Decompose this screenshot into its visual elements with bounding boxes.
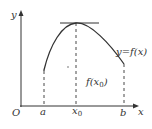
tick-label-a: a: [40, 106, 46, 117]
marker-dot: [67, 66, 69, 68]
origin-label: O: [12, 107, 20, 118]
x-axis-label: x: [138, 106, 144, 117]
curve-label: y=f(x): [115, 46, 147, 57]
tick-label-b: b: [120, 107, 126, 118]
y-axis-label: y: [10, 9, 17, 20]
function-curve: [44, 23, 124, 71]
y-axis-arrow-icon: [19, 10, 24, 16]
extremum-diagram: y x O a x0 b y=f(x) f(x0): [0, 0, 152, 129]
value-label: f(x0): [85, 76, 108, 89]
tick-label-x0: x0: [72, 105, 82, 118]
